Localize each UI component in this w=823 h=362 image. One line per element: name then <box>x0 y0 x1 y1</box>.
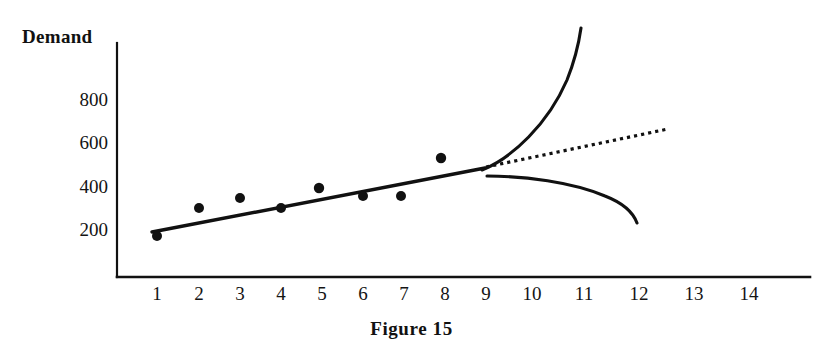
figure-caption: Figure 15 <box>0 318 823 340</box>
x-tick-label-10: 10 <box>523 283 542 305</box>
y-tick-label-200: 200 <box>58 219 108 241</box>
x-tick-label-6: 6 <box>358 283 368 305</box>
forecast-dotted-line <box>486 129 668 167</box>
x-tick-label-12: 12 <box>630 283 649 305</box>
y-tick-label-800: 800 <box>58 89 108 111</box>
data-point-group <box>152 153 446 241</box>
y-axis-title: Demand <box>22 26 92 48</box>
y-tick-label-600: 600 <box>58 132 108 154</box>
data-point <box>235 193 245 203</box>
data-point <box>314 183 324 193</box>
data-point <box>396 191 406 201</box>
x-tick-label-4: 4 <box>276 283 286 305</box>
x-tick-label-11: 11 <box>575 283 593 305</box>
x-tick-label-5: 5 <box>317 283 327 305</box>
trend-line <box>152 168 485 232</box>
x-tick-label-13: 13 <box>685 283 704 305</box>
x-tick-label-14: 14 <box>740 283 759 305</box>
lower-prediction-curve <box>487 176 637 223</box>
data-point <box>152 231 162 241</box>
data-point <box>276 203 286 213</box>
x-tick-label-3: 3 <box>235 283 245 305</box>
data-point <box>194 203 204 213</box>
data-point <box>358 191 368 201</box>
figure-container: Demand 800 600 400 200 1 2 3 4 5 6 7 8 9… <box>0 0 823 362</box>
x-tick-label-9: 9 <box>481 283 491 305</box>
data-point <box>436 153 446 163</box>
x-tick-label-1: 1 <box>152 283 162 305</box>
x-tick-label-8: 8 <box>440 283 450 305</box>
chart-plot-area <box>0 0 823 362</box>
y-tick-label-400: 400 <box>58 176 108 198</box>
x-tick-label-2: 2 <box>194 283 204 305</box>
x-tick-label-7: 7 <box>399 283 409 305</box>
